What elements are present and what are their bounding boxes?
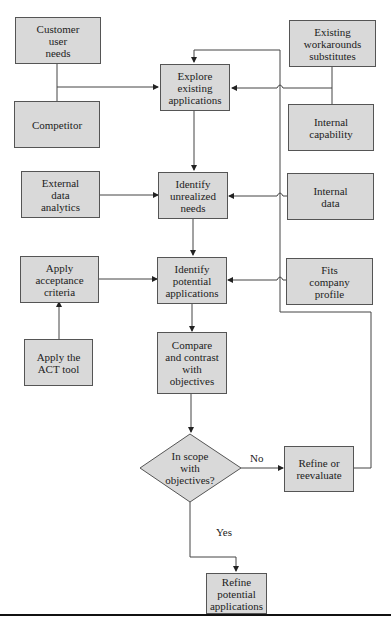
- node-compare-and-contrast: Compare and contrast with objectives: [157, 332, 227, 394]
- node-label: Compare and contrast with objectives: [165, 339, 218, 387]
- node-fits-company-profile: Fits company profile: [286, 258, 373, 305]
- node-label: Apply the ACT tool: [37, 351, 81, 375]
- node-label: Fits company profile: [309, 264, 349, 300]
- node-customer-user-needs: Customer user needs: [15, 17, 101, 64]
- node-internal-capability: Internal capability: [288, 104, 374, 151]
- node-label: Existing workarounds substitutes: [304, 26, 361, 62]
- node-refine-or-reevaluate: Refine or reevaluate: [284, 446, 354, 492]
- node-refine-potential-applications: Refine potential applications: [206, 573, 267, 614]
- bottom-rule: [0, 614, 391, 616]
- node-apply-act-tool: Apply the ACT tool: [24, 339, 93, 386]
- edge-label-yes: Yes: [216, 526, 232, 538]
- node-label: Refine or reevaluate: [296, 457, 341, 481]
- node-internal-data: Internal data: [287, 173, 374, 220]
- node-label: Identify potential applications: [165, 263, 218, 299]
- edge-label-no: No: [250, 452, 263, 464]
- node-apply-acceptance-criteria: Apply acceptance criteria: [20, 256, 99, 303]
- node-label: Internal capability: [309, 116, 352, 140]
- node-label: Refine potential applications: [210, 576, 263, 612]
- node-label: Customer user needs: [37, 23, 80, 59]
- node-in-scope-with-objectives: In scope with objectives?: [150, 450, 230, 486]
- node-label: External data analytics: [41, 177, 80, 213]
- node-label: Identify unrealized needs: [170, 178, 216, 214]
- node-label: Internal data: [313, 185, 347, 209]
- node-explore-existing-applications: Explore existing applications: [160, 64, 230, 111]
- node-external-data-analytics: External data analytics: [21, 171, 100, 218]
- node-identify-potential-applications: Identify potential applications: [157, 257, 227, 304]
- node-existing-workarounds: Existing workarounds substitutes: [289, 20, 376, 67]
- node-competitor: Competitor: [14, 101, 100, 148]
- node-label: Apply acceptance criteria: [35, 262, 83, 298]
- node-label: Explore existing applications: [168, 70, 221, 106]
- node-identify-unrealized-needs: Identify unrealized needs: [158, 172, 228, 219]
- node-label: Competitor: [32, 119, 82, 131]
